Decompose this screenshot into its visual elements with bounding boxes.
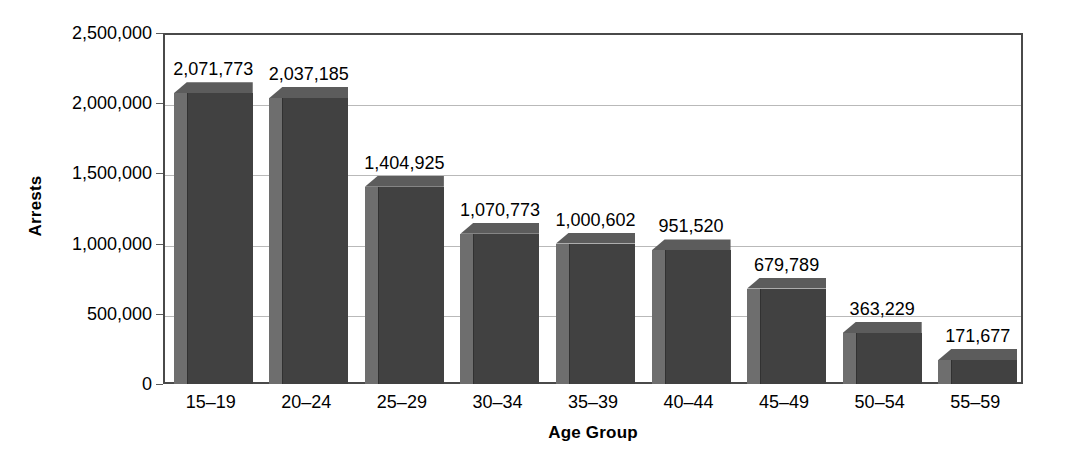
y-axis-tick-label: 1,500,000 [72, 164, 152, 182]
bar-value-label: 1,000,602 [555, 211, 635, 230]
x-axis-tick-label: 40–44 [641, 392, 737, 412]
bar-front-face [665, 250, 731, 384]
y-axis-tick-mark [156, 173, 163, 174]
x-axis-tick-label: 20–24 [259, 392, 355, 412]
y-axis-tick-label: 0 [142, 375, 152, 393]
x-axis-tick-label: 50–54 [832, 392, 928, 412]
bar-top-face [460, 223, 539, 234]
bar [460, 223, 539, 384]
bar-top-face [652, 239, 731, 250]
bar-value-label: 2,071,773 [173, 60, 253, 79]
bar-front-face [378, 187, 444, 384]
bar [843, 322, 922, 384]
bar [269, 87, 348, 384]
bar-top-face [747, 278, 826, 289]
y-axis-tick-mark [156, 33, 163, 34]
bar-column [365, 33, 444, 384]
bar-side-face [269, 98, 282, 384]
bar-side-face [938, 360, 951, 384]
bar-front-face [760, 289, 826, 384]
bar-top-face [269, 87, 348, 98]
bar-front-face [569, 244, 635, 384]
bar-value-label: 2,037,185 [269, 65, 349, 84]
bar-side-face [365, 187, 378, 384]
bar-column [556, 33, 635, 384]
y-axis-tick-mark [156, 103, 163, 104]
bar-value-label: 951,520 [659, 217, 724, 236]
x-axis-tick-label: 25–29 [354, 392, 450, 412]
bar-value-label: 1,070,773 [460, 201, 540, 220]
bar-top-face [938, 349, 1017, 360]
bar-top-face [365, 176, 444, 187]
bar-value-label: 171,677 [945, 327, 1010, 346]
x-axis-tick-labels: 15–1920–2425–2930–3435–3940–4445–4950–54… [163, 392, 1023, 418]
bar-top-face [174, 82, 253, 93]
bar-side-face [460, 234, 473, 384]
bar-front-face [856, 333, 922, 384]
bar [556, 233, 635, 384]
y-axis-tick-label: 2,500,000 [72, 24, 152, 42]
bar [174, 82, 253, 384]
bar [652, 239, 731, 384]
x-axis-tick-label: 55–59 [927, 392, 1023, 412]
y-axis-tick-label: 1,000,000 [72, 235, 152, 253]
bar-side-face [652, 250, 665, 384]
bar-value-label: 679,789 [754, 256, 819, 275]
y-axis-tick-label: 2,000,000 [72, 94, 152, 112]
bar-side-face [747, 289, 760, 384]
bar-value-label: 1,404,925 [364, 154, 444, 173]
y-axis-tick-mark [156, 384, 163, 385]
bar-front-face [951, 360, 1017, 384]
bar-side-face [843, 333, 856, 384]
bar-column [652, 33, 731, 384]
bar-series: 2,071,7732,037,1851,404,9251,070,7731,00… [163, 33, 1023, 384]
bar-top-face [843, 322, 922, 333]
y-axis-tick-mark [156, 244, 163, 245]
bar [938, 349, 1017, 384]
bar-column [174, 33, 253, 384]
bar-front-face [473, 234, 539, 384]
x-axis-tick-label: 45–49 [736, 392, 832, 412]
bar [365, 176, 444, 384]
x-axis-tick-label: 15–19 [163, 392, 259, 412]
bar-column [843, 33, 922, 384]
bar-front-face [187, 93, 253, 384]
bar-value-label: 363,229 [850, 300, 915, 319]
bar-chart: Arrests 0500,0001,000,0001,500,0002,000,… [0, 0, 1068, 471]
y-axis-tick-labels: 0500,0001,000,0001,500,0002,000,0002,500… [0, 0, 160, 471]
bar-front-face [282, 98, 348, 384]
bar-side-face [556, 244, 569, 384]
bar-column [747, 33, 826, 384]
x-axis-tick-label: 30–34 [450, 392, 546, 412]
x-axis-tick-label: 35–39 [545, 392, 641, 412]
x-axis-title: Age Group [163, 423, 1023, 443]
y-axis-tick-mark [156, 314, 163, 315]
bar [747, 278, 826, 384]
y-axis-tick-label: 500,000 [87, 305, 152, 323]
bar-side-face [174, 93, 187, 384]
bar-column [269, 33, 348, 384]
bar-top-face [556, 233, 635, 244]
